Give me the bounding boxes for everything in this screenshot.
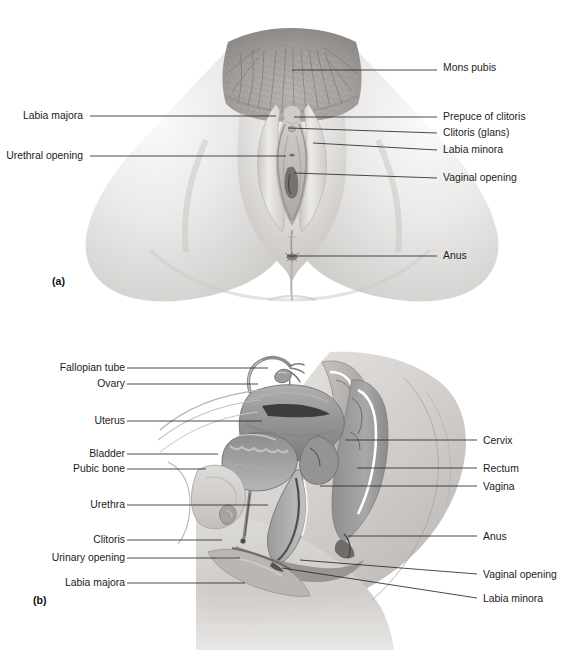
panel-marker-b: (b) (33, 594, 47, 606)
panel-b-illustration (158, 352, 466, 650)
label-clitoris-panel-b: Clitoris (93, 534, 125, 545)
label-urethral-opening-panel-a: Urethral opening (6, 150, 83, 161)
figure-canvas: Labia majoraUrethral openingMons pubisPr… (0, 0, 584, 661)
label-fallopian-tube-panel-b: Fallopian tube (60, 362, 125, 373)
prepuce-of-clitoris (283, 106, 300, 125)
label-urethra-panel-b: Urethra (90, 499, 125, 510)
anatomy-figure: Labia majoraUrethral openingMons pubisPr… (0, 0, 584, 661)
label-vaginal-opening-panel-b: Vaginal opening (483, 569, 557, 580)
label-uterus-panel-b: Uterus (94, 415, 125, 426)
abdominal-wall-inner (168, 462, 190, 544)
label-pubic-bone-panel-b: Pubic bone (73, 463, 125, 474)
label-ovary-panel-b: Ovary (97, 378, 126, 389)
vaginal-opening (285, 167, 298, 198)
clitoris-glans (288, 126, 295, 132)
label-cervix-panel-b: Cervix (483, 435, 513, 446)
pubic-bone-shape (191, 465, 245, 529)
panel-marker-a: (a) (52, 275, 65, 287)
label-rectum-panel-b: Rectum (483, 463, 519, 474)
label-labia-minora-panel-b: Labia minora (483, 593, 543, 604)
label-vaginal-opening-panel-a: Vaginal opening (443, 172, 517, 183)
label-labia-majora-panel-b: Labia majora (65, 577, 125, 588)
label-prepuce-of-clitoris-panel-a: Prepuce of clitoris (443, 111, 526, 122)
label-anus-panel-b: Anus (483, 531, 507, 542)
label-vagina-panel-b: Vagina (483, 481, 515, 492)
gluteal-cleft (291, 262, 292, 300)
label-labia-minora-panel-a: Labia minora (443, 144, 503, 155)
label-urinary-opening-panel-b: Urinary opening (52, 552, 126, 563)
label-labia-majora-panel-a: Labia majora (23, 110, 83, 121)
urinary-opening-sagittal (240, 538, 245, 543)
label-clitoris-glans-panel-a: Clitoris (glans) (443, 127, 509, 138)
panel-a-illustration (86, 24, 499, 301)
label-anus-panel-a: Anus (443, 250, 467, 261)
label-bladder-panel-b: Bladder (89, 448, 125, 459)
label-mons-pubis-panel-a: Mons pubis (443, 62, 496, 73)
